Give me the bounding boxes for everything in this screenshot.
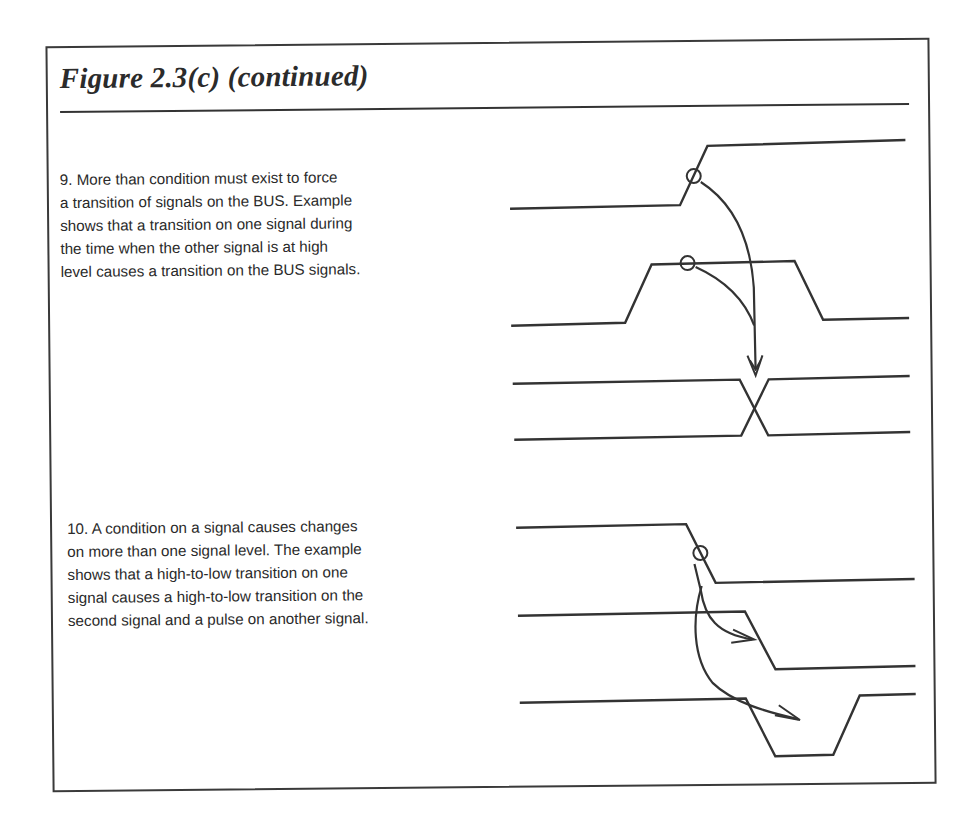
bus-line-a xyxy=(513,378,911,438)
diagram-9 xyxy=(509,140,910,440)
cause-arrow-to-signal-2 xyxy=(694,563,752,640)
signal-2-falling xyxy=(518,610,916,672)
figure-page: Figure 2.3(c) (continued) 9. More than c… xyxy=(0,0,979,826)
cause-arrow-from-signal-1 xyxy=(701,181,756,370)
timing-diagrams xyxy=(0,0,979,826)
bus-line-b xyxy=(514,376,911,440)
signal-1-rising xyxy=(509,140,906,209)
cause-curve-from-signal-2 xyxy=(696,266,755,326)
signal-2-pulse xyxy=(511,260,910,326)
diagram-10 xyxy=(516,522,916,759)
signal-1-falling xyxy=(516,522,915,585)
signal-3-pulse xyxy=(520,694,917,759)
arrow-head-icon xyxy=(775,705,800,720)
